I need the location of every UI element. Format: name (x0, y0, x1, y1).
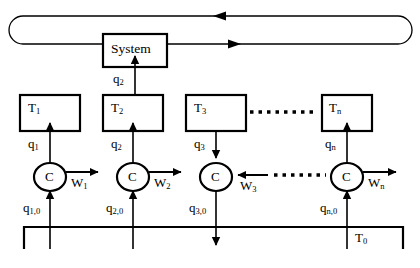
q1-signal-label: q1 (28, 137, 39, 152)
system-feedback-loop (9, 16, 412, 44)
w1-signal-label: W1 (71, 176, 88, 191)
cn-controller-label: C (342, 170, 351, 183)
w2-signal-label: W2 (154, 176, 171, 191)
t3-block-label: T3 (194, 101, 206, 116)
q20-signal-label: q2,0 (106, 201, 123, 216)
t0-bus-label: T0 (355, 231, 367, 246)
q30-signal-label: q3,0 (189, 201, 206, 216)
q2-signal-label: q2 (111, 137, 122, 152)
w3-signal-label: W3 (240, 179, 257, 194)
diagram-vector-layer (0, 0, 420, 268)
diagram-canvas: System T1 T2 T3 Tn C C C C q1 q2 q2 q3 q… (0, 0, 420, 268)
system-block-label: System (111, 42, 151, 56)
tn-block-label: Tn (329, 101, 341, 116)
q3-signal-label: q3 (194, 137, 205, 152)
loop-arrowhead-left (213, 12, 226, 21)
q10-signal-label: q1,0 (23, 201, 40, 216)
wn-signal-label: Wn (368, 176, 385, 191)
t1-block-label: T1 (28, 101, 40, 116)
c3-controller-label: C (211, 170, 220, 183)
t0-bus (24, 227, 403, 249)
loop-arrowhead-right (228, 40, 241, 49)
qn0-signal-label: qn,0 (320, 201, 337, 216)
c1-controller-label: C (45, 170, 54, 183)
c2-controller-label: C (128, 170, 137, 183)
q2-system-signal-label: q2 (113, 72, 124, 87)
qn-signal-label: qn (325, 137, 336, 152)
t2-block-label: T2 (111, 101, 123, 116)
